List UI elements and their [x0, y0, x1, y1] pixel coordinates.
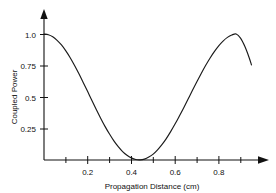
x-axis-arrowhead	[258, 156, 269, 163]
y-tick-label-075: 0.75	[20, 62, 36, 71]
x-axis-title: Propagation Distance (cm)	[105, 182, 200, 191]
x-tick-label-06: 0.6	[170, 168, 182, 177]
y-tick-label-1: 1.0	[25, 31, 37, 40]
x-tick-label-02: 0.2	[82, 168, 94, 177]
y-axis-arrowhead	[40, 9, 47, 19]
x-tick-label-08: 0.8	[213, 168, 225, 177]
y-tick-label-05: 0.5	[25, 94, 37, 103]
coupled-power-curve	[44, 34, 251, 160]
coupled-power-chart: 1.0 0.75 0.5 0.25 0.2 0.4 0.6 0.8 Propag…	[0, 0, 276, 193]
y-tick-label-025: 0.25	[20, 125, 36, 134]
y-axis-title: Coupled Power	[10, 69, 19, 124]
x-tick-label-04: 0.4	[126, 168, 138, 177]
